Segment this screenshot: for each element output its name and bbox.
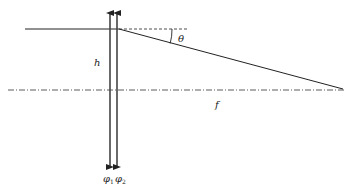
angle-arc bbox=[170, 29, 172, 43]
height-label: h bbox=[94, 57, 100, 68]
lens2-label: φ2 bbox=[115, 173, 126, 185]
refracted-ray bbox=[119, 29, 343, 89]
lens1-label: φ1 bbox=[103, 173, 114, 185]
angle-label: θ bbox=[178, 33, 184, 44]
focal-length-label: f bbox=[214, 99, 221, 110]
optics-diagram: h θ f φ1 φ2 bbox=[0, 0, 353, 190]
